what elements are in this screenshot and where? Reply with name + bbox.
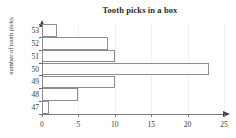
bar-row [42,37,108,50]
x-tick-mark [224,114,225,117]
x-tick-label: 25 [215,120,233,129]
y-axis-title-line-1: number of [7,47,14,74]
x-tick-mark [42,114,43,117]
y-tick-label: 47 [25,103,39,112]
bar-row [42,50,115,63]
bar-row [42,63,209,76]
y-tick-label: 50 [25,65,39,74]
x-tick-label: 20 [179,120,197,129]
x-tick-mark [188,114,189,117]
x-tick-label: 0 [33,120,51,129]
bar-51 [42,50,115,63]
bar-48 [42,88,78,101]
y-axis-title: number of tooth picks [1,7,21,85]
bar-50 [42,63,209,76]
x-tick-label: 10 [106,120,124,129]
x-tick-label: 15 [142,120,160,129]
bar-53 [42,24,57,37]
bar-52 [42,37,108,50]
x-tick-mark [115,114,116,117]
y-tick-label: 51 [25,52,39,61]
y-tick-label: 52 [25,39,39,48]
y-axis-title-line-2: tooth picks [7,17,14,46]
y-tick-label: 48 [25,90,39,99]
gridline [224,24,225,114]
x-tick-label: 5 [69,120,87,129]
y-tick-label-group: 53525150494847 [24,24,39,114]
bar-row [42,24,57,37]
y-tick-label: 49 [25,77,39,86]
bar-row [42,101,49,114]
chart-title: Tooth picks in a box [60,5,220,15]
x-tick-mark [78,114,79,117]
bar-49 [42,76,115,89]
bar-row [42,76,115,89]
bar-47 [42,101,49,114]
bar-row [42,88,78,101]
chart-figure: Tooth picks in a box number of tooth pic… [0,0,236,138]
y-tick-label: 53 [25,26,39,35]
x-axis-line [42,114,224,115]
x-tick-mark [151,114,152,117]
